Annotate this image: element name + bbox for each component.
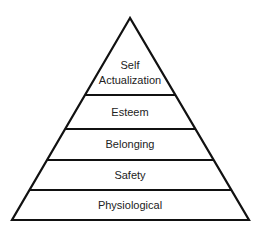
level-physiological: Physiological (98, 199, 162, 211)
pyramid-diagram: Self Actualization Esteem Belonging Safe… (0, 0, 261, 229)
level-safety: Safety (114, 169, 146, 181)
level-belonging: Belonging (106, 138, 155, 150)
level-esteem: Esteem (111, 106, 148, 118)
level-label-line2: Actualization (99, 74, 161, 86)
level-self-actualization: Self Actualization (99, 59, 161, 86)
level-label-line1: Self (121, 59, 141, 71)
